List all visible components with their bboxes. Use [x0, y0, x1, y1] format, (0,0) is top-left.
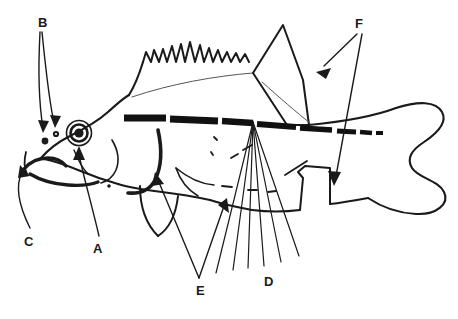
- leader-B: [39, 32, 54, 128]
- label-B: B: [38, 16, 47, 29]
- nostrils: [42, 131, 60, 145]
- soft-dorsal-fin: [253, 25, 310, 125]
- label-A: A: [93, 242, 102, 255]
- leader-E: [158, 180, 224, 278]
- arrowhead-B2: [50, 115, 61, 128]
- fish-anatomy-figure: [0, 0, 458, 319]
- body-outline: [41, 62, 143, 158]
- leader-D-fan: [216, 122, 299, 273]
- arrowhead-F1: [316, 68, 331, 79]
- label-F: F: [355, 17, 363, 30]
- operculum: [101, 130, 161, 193]
- spiny-dorsal-fin: [132, 42, 253, 97]
- label-C: C: [24, 235, 33, 248]
- label-D: D: [264, 275, 273, 288]
- eye: [67, 121, 92, 146]
- leader-F: [324, 34, 362, 176]
- flank-detail-dashes: [211, 137, 307, 192]
- leader-A: [79, 155, 99, 236]
- caudal-peduncle-upper: [309, 108, 396, 125]
- caudal-fin: [368, 103, 445, 214]
- mouth: [24, 152, 98, 185]
- label-E: E: [196, 284, 205, 297]
- arrowhead-E2: [218, 198, 229, 213]
- arrowhead-B1: [38, 120, 49, 133]
- pectoral-fin: [176, 168, 214, 196]
- leader-C: [18, 172, 30, 228]
- diagram-canvas: B F C A E D: [0, 0, 458, 319]
- anal-fin: [298, 166, 330, 210]
